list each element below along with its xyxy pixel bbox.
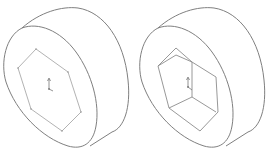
cylinder-front-face <box>4 26 97 147</box>
cylinder-front-face <box>140 26 233 147</box>
cylinder-back-outline <box>158 8 265 146</box>
origin-triad-icon <box>187 77 193 90</box>
figure-right-hex-pocket <box>140 8 265 148</box>
figure-left-hex-sketch <box>4 8 129 148</box>
cylinder-back-outline <box>22 8 129 146</box>
pocket-inner-edges <box>158 55 216 112</box>
sketch-vertices <box>17 48 82 132</box>
cad-drawings <box>0 0 271 163</box>
origin-triad-icon <box>48 78 54 91</box>
